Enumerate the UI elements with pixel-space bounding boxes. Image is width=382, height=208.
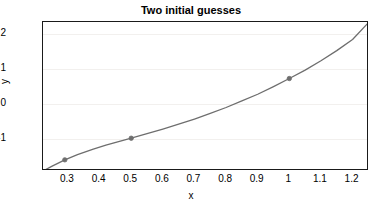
data-series-layer [43,22,368,170]
chart-figure: Two initial guesses y x 210-1 0.30.40.50… [0,0,382,208]
x-axis-label: x [0,190,382,201]
y-axis-label: y [0,79,10,84]
series-line [43,22,368,170]
data-point-marker [129,136,133,140]
y-tick-label: 0 [0,98,6,108]
chart-title: Two initial guesses [0,4,382,16]
data-point-marker [63,158,67,162]
plot-area [42,21,368,170]
x-tick-label: 1.2 [332,174,372,184]
y-tick-label: -1 [0,133,6,143]
y-tick-label: 2 [0,28,6,38]
data-point-marker [287,76,291,80]
y-tick-label: 1 [0,63,6,73]
